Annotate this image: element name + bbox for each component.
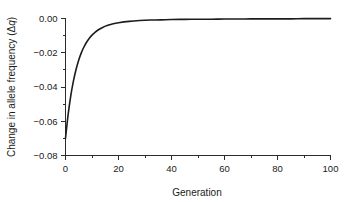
y-tick-label: 0.00	[39, 13, 58, 24]
y-tick-label: −0.08	[33, 150, 57, 161]
y-axis-title-suffix: )	[6, 17, 17, 20]
y-axis-title: Change in allele frequency (Δq)	[6, 17, 17, 157]
y-tick-label: −0.06	[33, 116, 57, 127]
x-tick-label: 60	[219, 163, 230, 174]
x-tick-label: 80	[272, 163, 283, 174]
allele-frequency-line-chart: 0.00−0.02−0.04−0.06−0.08 020406080100 Ge…	[0, 0, 345, 202]
x-tick-label: 0	[63, 163, 68, 174]
x-tick-label: 40	[166, 163, 177, 174]
x-tick-label: 100	[323, 163, 339, 174]
y-tick-label: −0.04	[33, 81, 57, 92]
x-tick-label: 20	[113, 163, 124, 174]
chart-figure: 0.00−0.02−0.04−0.06−0.08 020406080100 Ge…	[0, 0, 345, 202]
x-axis-title: Generation	[172, 187, 221, 198]
y-tick-label: −0.02	[33, 47, 57, 58]
y-axis-title-prefix: Change in allele frequency (Δ	[6, 26, 17, 158]
